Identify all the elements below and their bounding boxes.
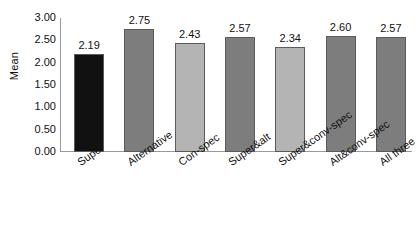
x-axis-category-labels: Super Alternative Con-spec Super&alt Sup… bbox=[60, 152, 412, 250]
bar-value-label: 2.43 bbox=[179, 29, 200, 40]
bar-value-label: 2.75 bbox=[129, 15, 150, 26]
bar-slot: 2.34 bbox=[275, 18, 305, 152]
y-axis-title: Mean bbox=[8, 36, 20, 96]
y-tick-label: 0.50 bbox=[22, 124, 56, 135]
bar-chart: Mean 3.00 2.50 2.00 1.50 1.00 0.50 0.00 … bbox=[0, 0, 418, 250]
bar-value-label: 2.34 bbox=[280, 33, 301, 44]
y-tick-label: 2.50 bbox=[22, 34, 56, 45]
y-tick-label: 2.00 bbox=[22, 57, 56, 68]
bar-value-label: 2.19 bbox=[78, 40, 99, 51]
plot-area: 2.19 2.75 2.43 2.57 2.34 2.60 bbox=[60, 18, 412, 152]
bar-value-label: 2.60 bbox=[330, 22, 351, 33]
bar-slot: 2.19 bbox=[74, 18, 104, 152]
bar bbox=[225, 37, 255, 152]
bar bbox=[275, 47, 305, 152]
bar bbox=[124, 29, 154, 152]
bar-slot: 2.43 bbox=[175, 18, 205, 152]
y-tick-label: 3.00 bbox=[22, 12, 56, 23]
y-axis-tick-labels: 3.00 2.50 2.00 1.50 1.00 0.50 0.00 bbox=[22, 0, 56, 250]
bar bbox=[175, 43, 205, 152]
y-tick-label: 1.50 bbox=[22, 79, 56, 90]
y-tick-label: 1.00 bbox=[22, 101, 56, 112]
bar-value-label: 2.57 bbox=[229, 23, 250, 34]
bar-value-label: 2.57 bbox=[380, 23, 401, 34]
bar bbox=[74, 54, 104, 152]
bar-slot: 2.57 bbox=[225, 18, 255, 152]
y-tick-label: 0.00 bbox=[22, 146, 56, 157]
bar-series: 2.19 2.75 2.43 2.57 2.34 2.60 bbox=[60, 18, 412, 152]
bar-slot: 2.75 bbox=[124, 18, 154, 152]
